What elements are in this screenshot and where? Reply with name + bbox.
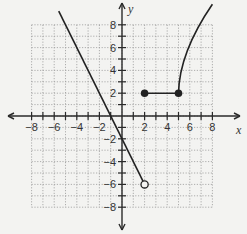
- coordinate-graph: −8−6−4−224688642−2−4−6−8 x y: [0, 0, 247, 234]
- y-tick-label: −8: [103, 201, 116, 213]
- x-axis-label: x: [235, 123, 242, 137]
- y-tick-label: −4: [103, 156, 116, 168]
- x-tick-label: 2: [142, 121, 148, 133]
- closed-endpoint: [175, 89, 183, 97]
- y-tick-label: 2: [110, 87, 116, 99]
- y-tick-label: −6: [103, 178, 116, 190]
- curved-piece: [179, 4, 213, 93]
- x-tick-label: 6: [187, 121, 193, 133]
- y-tick-label: 4: [110, 64, 116, 76]
- y-tick-label: 6: [110, 42, 116, 54]
- x-tick-label: −8: [25, 121, 38, 133]
- x-tick-label: 8: [209, 121, 215, 133]
- function-graph: [59, 4, 213, 188]
- x-tick-label: −2: [93, 121, 106, 133]
- x-tick-label: −6: [48, 121, 61, 133]
- x-tick-label: −4: [71, 121, 84, 133]
- y-axis-label: y: [127, 2, 134, 16]
- linear-piece: [59, 11, 145, 184]
- x-tick-label: 4: [164, 121, 170, 133]
- closed-endpoint: [141, 89, 149, 97]
- open-endpoint: [141, 181, 148, 188]
- y-tick-label: −2: [103, 133, 116, 145]
- y-tick-label: 8: [110, 19, 116, 31]
- coordinate-plane: −8−6−4−224688642−2−4−6−8 x y: [0, 0, 247, 234]
